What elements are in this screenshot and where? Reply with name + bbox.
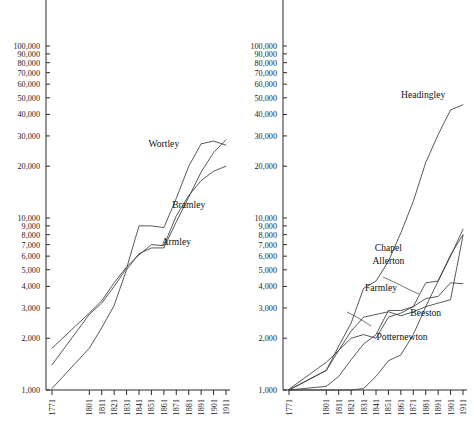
y-tick-label: 40,000 [254,110,277,119]
x-tick-label: 1851 [384,399,393,415]
y-tick-label: 9,000 [259,222,277,231]
x-tick-label: 1831 [360,399,369,415]
y-tick-label: 70,000 [254,69,277,78]
y-tick-label: 20,000 [254,162,277,171]
x-tick-label: 1881 [185,399,194,415]
x-tick-label: 1901 [447,399,456,415]
y-tick-label: 6,000 [22,252,40,261]
y-tick-label: 2,000 [259,334,277,343]
series-line-armley [52,140,226,389]
series-annotation: Armley [162,236,192,247]
series-annotation: Chapel [375,242,403,253]
y-tick-label: 50,000 [17,94,40,103]
plot-area: 1,0002,0003,0004,0005,0006,0007,0008,000… [13,0,231,415]
y-tick-label: 7,000 [259,241,277,250]
x-tick-label: 1911 [222,399,231,415]
x-tick-label: 1811 [98,399,107,415]
chart-right-svg: 1,0002,0003,0004,0005,0006,0007,0008,000… [237,0,474,426]
x-tick-label: 1861 [397,399,406,415]
y-tick-label: 100,000 [13,42,40,51]
x-tick-label: 1801 [322,399,331,415]
y-tick-label: 60,000 [254,80,277,89]
x-tick-label: 1871 [172,399,181,415]
series-annotation: Wortley [149,138,180,149]
y-tick-label: 80,000 [254,59,277,68]
y-tick-label: 20,000 [17,162,40,171]
x-tick-label: 1911 [459,399,468,415]
x-tick-label: 1801 [85,399,94,415]
chart-left-svg: 1,0002,0003,0004,0005,0006,0007,0008,000… [0,0,237,426]
x-tick-label: 1891 [434,399,443,415]
x-tick-label: 1821 [110,399,119,415]
x-tick-label: 1771 [285,399,294,415]
y-tick-label: 1,000 [259,386,277,395]
y-tick-label: 9,000 [22,222,40,231]
y-tick-label: 4,000 [22,282,40,291]
x-tick-label: 1771 [48,399,57,415]
y-tick-label: 5,000 [259,266,277,275]
series-annotation: Beeston [410,307,441,318]
y-tick-label: 40,000 [17,110,40,119]
y-tick-label: 100,000 [250,42,277,51]
y-tick-label: 8,000 [22,231,40,240]
y-tick-label: 7,000 [22,241,40,250]
y-tick-label: 90,000 [17,50,40,59]
chart-panel-left: 1,0002,0003,0004,0005,0006,0007,0008,000… [0,0,237,426]
y-tick-label: 10,000 [254,214,277,223]
x-tick-label: 1861 [160,399,169,415]
x-tick-label: 1851 [147,399,156,415]
y-tick-label: 10,000 [17,214,40,223]
y-tick-label: 6,000 [259,252,277,261]
series-line-bramley [52,166,226,348]
x-tick-label: 1901 [210,399,219,415]
y-tick-label: 3,000 [259,304,277,313]
series-annotation: Bramley [172,199,205,210]
x-tick-label: 1831 [123,399,132,415]
y-tick-label: 5,000 [22,266,40,275]
y-tick-label: 30,000 [17,132,40,141]
x-tick-label: 1821 [347,399,356,415]
y-tick-label: 90,000 [254,50,277,59]
plot-area: 1,0002,0003,0004,0005,0006,0007,0008,000… [250,0,468,415]
x-tick-label: 1891 [197,399,206,415]
y-tick-label: 60,000 [17,80,40,89]
series-annotation: Potternewton [377,331,428,342]
chart-panel-right: 1,0002,0003,0004,0005,0006,0007,0008,000… [237,0,474,426]
x-tick-label: 1811 [335,399,344,415]
series-annotation: Allerton [372,255,404,266]
x-tick-label: 1841 [135,399,144,415]
x-tick-label: 1881 [422,399,431,415]
y-tick-label: 3,000 [22,304,40,313]
series-annotation: Headingley [401,89,445,100]
x-tick-label: 1871 [409,399,418,415]
x-tick-label: 1841 [372,399,381,415]
y-tick-label: 70,000 [17,69,40,78]
y-tick-label: 80,000 [17,59,40,68]
series-annotation: Farmley [365,282,397,293]
figure-root: 1,0002,0003,0004,0005,0006,0007,0008,000… [0,0,474,426]
y-tick-label: 2,000 [22,334,40,343]
y-tick-label: 50,000 [254,94,277,103]
y-tick-label: 1,000 [22,386,40,395]
y-tick-label: 8,000 [259,231,277,240]
y-tick-label: 30,000 [254,132,277,141]
y-tick-label: 4,000 [259,282,277,291]
